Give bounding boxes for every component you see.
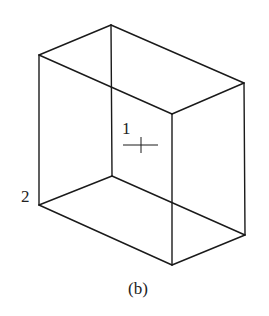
crosshair-marker	[123, 137, 158, 153]
edge-bottom-back-right	[112, 176, 245, 235]
label-point-1: 1	[122, 119, 131, 138]
edge-bottom-left-front	[39, 205, 172, 265]
box-diagram: 1 2 (b)	[0, 0, 269, 316]
edge-top-right-front	[172, 83, 244, 114]
edge-bottom-right-front	[172, 235, 245, 265]
label-point-2: 2	[21, 187, 30, 206]
edge-top-back-right	[111, 25, 244, 83]
edge-vertical-right	[244, 83, 245, 235]
edge-vertical-back	[111, 25, 112, 176]
edge-top-left-front	[39, 55, 172, 114]
figure-caption: (b)	[128, 279, 148, 298]
edge-top-back-left	[39, 25, 111, 55]
edge-bottom-back-left	[39, 176, 112, 205]
